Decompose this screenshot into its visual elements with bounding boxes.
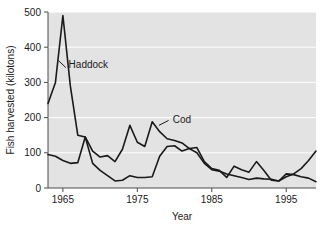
y-tick-label-100: 100: [24, 147, 41, 158]
x-tick-label-1995: 1995: [275, 194, 298, 205]
chart-figure: 0100200300400500 1965197519851995 Haddoc…: [0, 0, 332, 226]
y-tick-label-200: 200: [24, 112, 41, 123]
y-axis-title: Fish harvested (kilotons): [5, 46, 16, 155]
y-tick-label-500: 500: [24, 7, 41, 18]
y-tick-label-400: 400: [24, 42, 41, 53]
x-axis-title: Year: [172, 211, 193, 222]
plot-area-background: [48, 12, 316, 188]
series-label-haddock: Haddock: [69, 59, 109, 70]
plot-background-rect: [48, 12, 316, 188]
y-tick-label-300: 300: [24, 77, 41, 88]
line-chart-canvas: 0100200300400500 1965197519851995 Haddoc…: [0, 0, 332, 226]
x-tick-label-1965: 1965: [52, 194, 75, 205]
y-tick-label-0: 0: [35, 183, 41, 194]
x-tick-label-1985: 1985: [201, 194, 224, 205]
x-tick-label-1975: 1975: [126, 194, 149, 205]
series-label-cod: Cod: [173, 114, 191, 125]
